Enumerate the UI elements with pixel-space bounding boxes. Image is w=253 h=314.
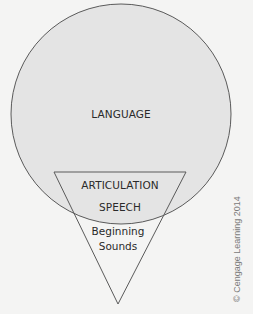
- label-beginning-sounds-line1: Beginning: [92, 225, 145, 237]
- label-beginning-sounds-line2: Sounds: [99, 240, 138, 252]
- label-language: LANGUAGE: [91, 108, 151, 120]
- label-articulation: ARTICULATION: [81, 179, 159, 191]
- copyright-credit: © Cengage Learning 2014: [232, 196, 242, 302]
- language-speech-diagram: LANGUAGE ARTICULATION SPEECH Beginning S…: [0, 0, 253, 314]
- label-speech: SPEECH: [99, 201, 141, 213]
